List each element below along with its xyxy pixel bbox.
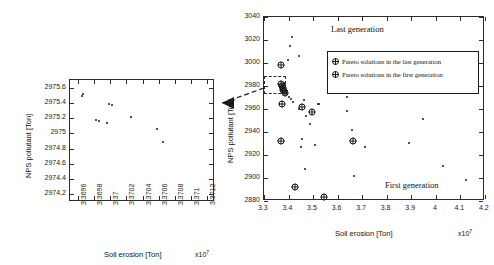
callout-leader — [0, 0, 494, 265]
figure-root: NPS pollutant [Ton] Soil erosion [Ton] x… — [0, 0, 494, 265]
callout-arrowhead — [222, 97, 234, 109]
